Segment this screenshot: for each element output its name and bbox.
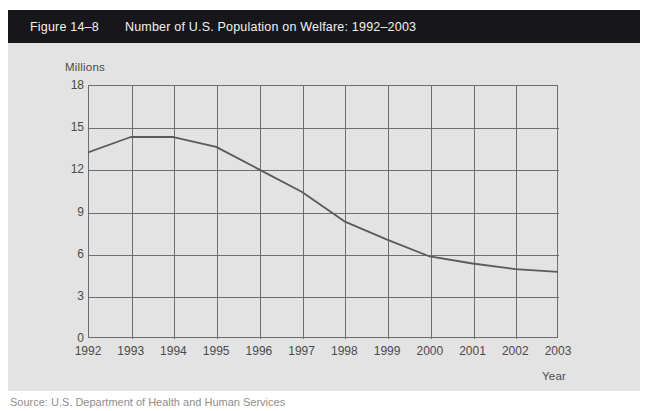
- x-tick-label: 2001: [450, 344, 496, 358]
- x-axis-title: Year: [542, 370, 566, 382]
- line-chart: Millions Year 0369121518 199219931994199…: [8, 43, 640, 391]
- source-note: Source: U.S. Department of Health and Hu…: [10, 396, 285, 408]
- y-tick-label: 0: [60, 331, 84, 345]
- y-axis-title: Millions: [65, 61, 105, 73]
- figure-header-bar: Figure 14–8 Number of U.S. Population on…: [8, 10, 640, 43]
- y-tick-label: 3: [60, 289, 84, 303]
- y-tick-label: 15: [60, 120, 84, 134]
- figure-number-label: Figure 14–8: [30, 20, 99, 34]
- x-tick-label: 1995: [193, 344, 239, 358]
- y-tick-label: 12: [60, 162, 84, 176]
- x-tick-label: 1997: [279, 344, 325, 358]
- x-tick-label: 1998: [321, 344, 367, 358]
- data-line-svg: [88, 85, 558, 338]
- figure-panel: Millions Year 0369121518 199219931994199…: [8, 43, 640, 391]
- x-tick-label: 1993: [108, 344, 154, 358]
- x-tick-label: 2000: [407, 344, 453, 358]
- y-tick-label: 9: [60, 205, 84, 219]
- figure-root: Figure 14–8 Number of U.S. Population on…: [0, 0, 649, 411]
- y-tick-label: 18: [60, 78, 84, 92]
- x-tick-label: 1994: [150, 344, 196, 358]
- data-line: [88, 137, 558, 272]
- x-axis-tick-labels: 1992199319941995199619971998199920002001…: [88, 344, 558, 364]
- x-tick-label: 1996: [236, 344, 282, 358]
- y-axis-tick-labels: 0369121518: [54, 85, 84, 338]
- figure-title-label: Number of U.S. Population on Welfare: 19…: [125, 20, 416, 34]
- x-tick-label: 2003: [535, 344, 581, 358]
- x-tick-label: 1999: [364, 344, 410, 358]
- x-tick-label: 2002: [492, 344, 538, 358]
- y-tick-label: 6: [60, 247, 84, 261]
- x-tick-label: 1992: [65, 344, 111, 358]
